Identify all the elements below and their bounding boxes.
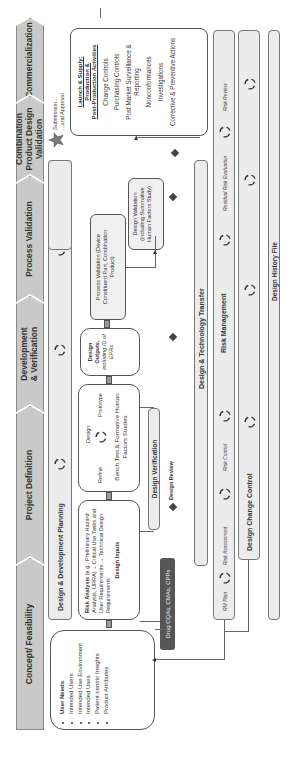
- arrow-icon: [134, 136, 138, 140]
- phase-label: Process Validation: [25, 201, 35, 277]
- process-validation-box: Process Validation (Device Constituent P…: [90, 214, 126, 320]
- submission-star-icon: [48, 132, 64, 148]
- launch-supply-box: Launch & Supply: Production & Post-Produ…: [70, 28, 208, 136]
- phase-label: Development & Verification: [20, 324, 40, 384]
- launch-title-line: Production &: [84, 33, 91, 131]
- risk-step-control: Risk Control: [222, 444, 228, 471]
- prototype-label: Prototype: [97, 393, 104, 417]
- refine-label: Refine: [97, 467, 104, 483]
- cycle-icon: [243, 415, 257, 429]
- process-validation-text: Process Validation (Device Constituent P…: [95, 219, 116, 315]
- connector: [140, 531, 154, 532]
- phase-combination-product-design-validation: Combination Product Design Validation: [16, 96, 44, 182]
- design-outputs-title: Design Outputs,: [87, 332, 101, 372]
- connector: [155, 629, 165, 630]
- planning-bar-label: Design & Development Planning: [57, 503, 64, 619]
- arrow-icon: [152, 658, 156, 662]
- design-verification-label: Design Verification: [151, 440, 158, 499]
- cycle-icon: [218, 571, 232, 585]
- design-review-diamond-icon: [169, 503, 177, 511]
- design-verification-bar: Design Verification: [148, 408, 160, 530]
- cycle-icon: [243, 77, 257, 91]
- list-item: Product Attributes: [103, 637, 111, 714]
- submission-label: Submission... ...and Approval: [52, 93, 65, 130]
- phase-project-definition: Project Definition: [16, 406, 44, 564]
- drug-cqa-label: Drug CQAs, CMAs, CPPs: [165, 570, 171, 639]
- risk-step-review: Risk Review: [222, 83, 228, 111]
- flow-arrow: [104, 320, 110, 328]
- cycle-icon: [243, 173, 257, 187]
- phase-label: Combination Product Design Validation: [15, 103, 44, 175]
- risk-step-residual-evaluation: Residual Risk Evaluation: [222, 156, 228, 211]
- launch-item: Purchasing Controls: [113, 33, 121, 131]
- risk-step-assessment: Risk Assessment: [222, 527, 228, 565]
- connector: [248, 560, 249, 632]
- risk-step-rm-plan: RM Plan: [222, 592, 228, 611]
- launch-title-line: Launch & Supply:: [77, 33, 84, 131]
- design-inputs-text: Risk Analysis (e.g., Preliminary Hazard …: [84, 507, 112, 613]
- launch-title-line: Post-Production Activities: [91, 33, 98, 131]
- phase-label: Commercialization: [25, 22, 35, 98]
- combination-validation-bar: [48, 160, 72, 250]
- design-review-diamond-icon: [169, 333, 177, 341]
- user-needs-box: User Needs Intended Users Intended Use E…: [50, 630, 155, 730]
- list-item: Intended Uses: [85, 637, 93, 714]
- risk-analysis-label: Risk Analysis: [84, 577, 90, 613]
- connector: [155, 659, 224, 660]
- design-review-diamond-icon: [169, 193, 177, 201]
- phase-label: Project Definition: [25, 450, 35, 520]
- design-review-label: Design Review: [168, 461, 174, 500]
- phase-commercialization: Commercialization: [16, 18, 44, 102]
- launch-item: Nonconformances: [145, 33, 153, 131]
- cycle-icon: [94, 430, 108, 444]
- flow-arrow: [106, 620, 112, 628]
- phase-development-verification: Development & Verification: [16, 296, 44, 412]
- connector: [224, 620, 225, 660]
- bench-test-text: Bench Test & Formative Human Factors Stu…: [113, 391, 129, 483]
- user-needs-list: User Needs Intended Users Intended Use E…: [59, 637, 111, 723]
- connector: [136, 137, 200, 138]
- cycle-icon: [243, 283, 257, 297]
- design-outputs-note: including ID of EPRs: [101, 332, 115, 372]
- design-label: Design: [85, 426, 92, 443]
- list-item: Intended Users: [68, 637, 76, 714]
- launch-title: Launch & Supply: Production & Post-Produ…: [77, 33, 99, 131]
- cycle-icon: [53, 343, 67, 357]
- design-change-control-label: Design Change Control: [246, 473, 253, 559]
- connector: [100, 8, 101, 18]
- arrow-icon: [153, 250, 157, 254]
- bench-test-box: Design Refine Prototype Bench Test & For…: [78, 384, 140, 492]
- risk-management-label: Risk Management: [220, 293, 227, 353]
- submission-line1: Submission...: [52, 93, 59, 130]
- phase-concept-feasibility: Concept/ Feasibility: [16, 558, 44, 730]
- cycle-icon: [218, 487, 232, 501]
- list-item: Patient-centric Insights: [94, 637, 102, 714]
- phase-label: Concept/ Feasibility: [25, 604, 35, 684]
- design-validation-text: Design Validation (including Summative H…: [132, 182, 153, 246]
- dhf-label: Design History File: [271, 242, 278, 619]
- list-item: Intended Use Environment: [77, 637, 85, 714]
- launch-item: Post Market Surveillance & Reporting: [125, 33, 141, 131]
- design-inputs-title: Design Inputs: [114, 507, 121, 613]
- connector: [140, 621, 160, 622]
- list-item: User Needs: [59, 637, 67, 714]
- design-outputs-box: Design Outputs, including ID of EPRs: [80, 328, 140, 376]
- design-inputs-box: Risk Analysis (e.g., Preliminary Hazard …: [78, 500, 140, 620]
- design-review-diamond-icon: [171, 149, 179, 157]
- connector: [140, 407, 154, 408]
- cycle-icon: [218, 233, 232, 247]
- design-validation-box: Design Validation (including Summative H…: [128, 178, 164, 250]
- submission-line2: ...and Approval: [59, 93, 66, 130]
- launch-item: Corrective & Preventive Actions: [169, 33, 177, 131]
- design-history-file-bar: Design History File: [268, 30, 280, 620]
- connector: [224, 631, 248, 632]
- drug-cqa-box: Drug CQAs, CMAs, CPPs: [160, 558, 175, 650]
- launch-item: Investigations: [157, 33, 165, 131]
- cycle-icon: [218, 125, 232, 139]
- flow-arrow: [106, 492, 112, 500]
- phase-process-validation: Process Validation: [16, 176, 44, 302]
- qbd-diagram: Concept/ Feasibility Project Definition …: [0, 0, 294, 778]
- flow-arrow: [106, 376, 112, 384]
- design-technology-transfer-bar: Design & Technology Transfer: [194, 160, 208, 566]
- design-change-control-bar: Design Change Control: [238, 30, 260, 560]
